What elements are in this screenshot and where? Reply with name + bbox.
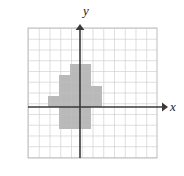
plot-canvas bbox=[0, 0, 184, 176]
y-axis-arrow bbox=[76, 24, 85, 30]
coordinate-grid-figure: y x bbox=[0, 0, 184, 176]
y-axis-label: y bbox=[83, 4, 89, 17]
x-axis-arrow bbox=[162, 103, 168, 112]
grid-overlay bbox=[28, 28, 157, 158]
x-axis-label: x bbox=[170, 100, 176, 113]
